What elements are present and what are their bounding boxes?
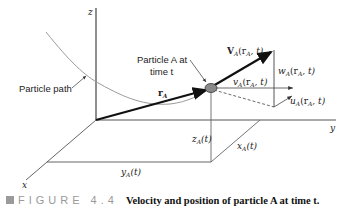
particle-a-label-line2: time t	[150, 66, 174, 77]
z-coordinate-label: zA(t)	[191, 134, 212, 145]
position-vector-arrow	[96, 90, 206, 120]
velocity-label: VA(rA, t)	[226, 46, 264, 57]
dashed-projection-line	[214, 90, 274, 107]
particle-a-label-line1: Particle A at	[137, 54, 188, 65]
figure-caption: FIGURE 4.4Velocity and position of parti…	[6, 194, 356, 207]
particle-path-leader	[72, 76, 86, 88]
figure-diagram: z y x Particle path Particle A at time t…	[0, 0, 359, 192]
figure-tag: FIGURE 4.4	[18, 194, 118, 206]
z-axis-label: z	[87, 7, 93, 17]
w-component-label: wA(rA, t)	[278, 66, 316, 77]
caption-square-icon	[6, 196, 14, 204]
x-axis	[26, 120, 96, 180]
y-coordinate-label: yA(t)	[120, 167, 142, 178]
position-vector-label: rA	[158, 88, 168, 99]
caption-text: Velocity and position of particle A at t…	[126, 195, 320, 206]
particle-a-leader	[190, 60, 206, 82]
x-axis-label: x	[22, 180, 27, 190]
u-component-label: uA(rA, t)	[290, 96, 326, 107]
y-axis-label: y	[329, 123, 336, 133]
particle-a	[205, 84, 217, 93]
particle-path-label: Particle path	[19, 83, 72, 94]
v-component-label: vA(rA, t)	[233, 77, 268, 88]
x-coordinate-label: xA(t)	[237, 141, 258, 152]
